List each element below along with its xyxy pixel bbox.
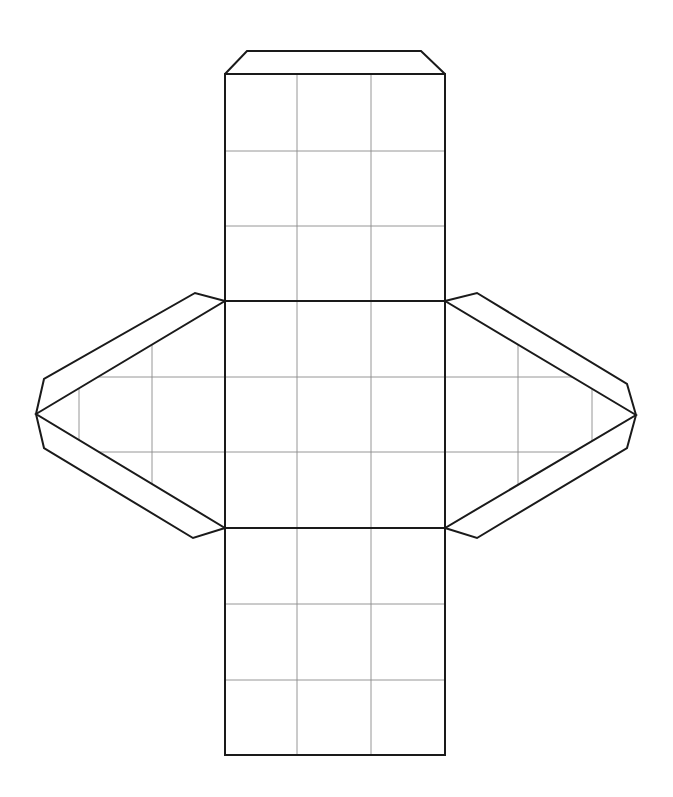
right-triangle-face bbox=[445, 301, 636, 528]
right-upper-glue-tab bbox=[445, 293, 636, 415]
left-triangle-face bbox=[36, 301, 225, 528]
left-upper-glue-tab bbox=[36, 293, 225, 414]
column-face bbox=[225, 74, 445, 755]
prism-net-diagram bbox=[0, 0, 673, 797]
right-lower-glue-tab bbox=[445, 415, 636, 538]
left-lower-glue-tab bbox=[36, 414, 225, 538]
top-glue-tab bbox=[225, 51, 445, 74]
